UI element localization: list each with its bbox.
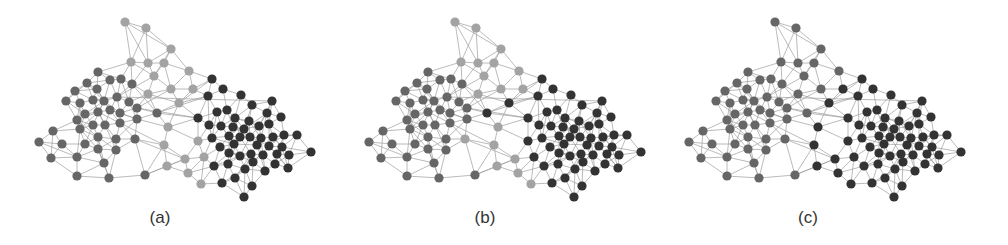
network-node — [267, 96, 276, 105]
network-node — [141, 23, 150, 32]
network-node — [722, 115, 731, 124]
network-node — [99, 96, 108, 105]
network-node — [754, 173, 763, 182]
network-node — [441, 145, 450, 154]
network-node — [264, 141, 273, 150]
network-node — [578, 157, 587, 166]
network-node — [260, 166, 269, 175]
network-node — [743, 144, 752, 153]
network-node — [574, 116, 583, 125]
network-node — [230, 173, 239, 182]
network-node — [602, 149, 611, 158]
network-node — [159, 58, 168, 67]
network-node — [446, 74, 455, 83]
network-node — [750, 120, 759, 129]
network-node — [229, 139, 238, 148]
network-node — [730, 139, 739, 148]
network-node — [765, 108, 774, 117]
network-node — [725, 124, 734, 133]
network-node — [584, 121, 593, 130]
network-node — [236, 90, 245, 99]
network-node — [874, 131, 883, 140]
network-node — [240, 164, 249, 173]
network-node — [441, 134, 450, 143]
network-node — [576, 149, 585, 158]
network-node — [75, 98, 84, 107]
network-node — [908, 150, 917, 159]
network-node — [489, 140, 498, 149]
network-node — [898, 157, 907, 166]
network-node — [292, 130, 301, 139]
network-node — [80, 139, 89, 148]
network-node — [442, 92, 451, 101]
network-node — [830, 154, 839, 163]
network-node — [270, 159, 279, 168]
network-node — [838, 84, 847, 93]
network-node — [790, 170, 799, 179]
network-node — [430, 120, 439, 129]
network-node — [418, 95, 427, 104]
network-node — [636, 147, 645, 156]
panel-caption-b: (b) — [455, 208, 515, 228]
network-node — [920, 159, 929, 168]
network-node — [93, 107, 102, 116]
network-node — [873, 159, 882, 168]
network-node — [592, 108, 601, 117]
network-node — [597, 96, 606, 105]
panel-caption-c: (c) — [778, 208, 838, 228]
network-node — [816, 84, 825, 93]
network-node — [244, 116, 253, 125]
network-node — [143, 89, 152, 98]
network-node — [471, 23, 480, 32]
network-node — [707, 139, 716, 148]
network-node — [904, 121, 913, 130]
network-node — [917, 96, 926, 105]
network-node — [922, 149, 931, 158]
network-node — [235, 132, 244, 141]
network-node — [410, 139, 419, 148]
network-node — [159, 140, 168, 149]
network-node — [738, 95, 747, 104]
network-node — [72, 115, 81, 124]
network-node — [859, 161, 868, 170]
network-node — [215, 142, 224, 151]
network-node — [82, 78, 91, 87]
network-node — [93, 144, 102, 153]
network-node — [284, 150, 293, 159]
network-node — [554, 131, 563, 140]
network-panel-a — [30, 10, 330, 210]
network-node — [566, 90, 575, 99]
network-node — [590, 166, 599, 175]
network-node — [72, 171, 81, 180]
network-node — [766, 74, 775, 83]
network-node — [862, 107, 871, 116]
network-node — [696, 153, 705, 162]
network-node — [143, 58, 152, 67]
network-node — [843, 136, 852, 145]
network-node — [559, 139, 568, 148]
network-node — [120, 17, 129, 26]
network-node — [57, 139, 66, 148]
network-node — [222, 105, 231, 114]
network-node — [279, 130, 288, 139]
network-node — [207, 74, 216, 83]
network-node — [537, 133, 546, 142]
network-node — [247, 100, 256, 109]
network-node — [203, 91, 212, 100]
network-node — [115, 108, 124, 117]
network-node — [61, 96, 70, 105]
network-node — [894, 116, 903, 125]
network-node — [272, 149, 281, 158]
network-node — [529, 152, 538, 161]
network-node — [92, 84, 101, 93]
nodes — [684, 17, 965, 201]
network-node — [762, 92, 771, 101]
network-node — [609, 130, 618, 139]
network-node — [545, 142, 554, 151]
network-node — [824, 98, 833, 107]
network-node — [791, 23, 800, 32]
network-node — [565, 151, 574, 160]
network-node — [166, 84, 175, 93]
network-node — [868, 84, 877, 93]
network-node — [132, 103, 141, 112]
